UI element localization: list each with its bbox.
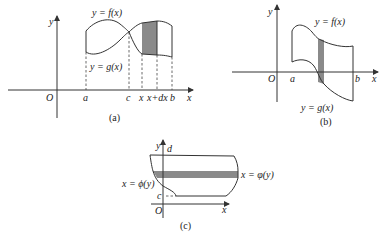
y-axis-label: y [48, 16, 54, 27]
figure-c: y d c O x x = ϕ(y) x = φ(y) (c) [121, 140, 274, 232]
tick-label-c: c [126, 92, 131, 103]
origin-label: O [268, 73, 275, 84]
tick-label-x: x [138, 92, 144, 103]
origin-label: O [46, 92, 53, 103]
figure-a: y x O y = f(x) y = g(x) a c x x+dx b (a) [8, 7, 193, 124]
figure-a-caption: (a) [109, 112, 120, 124]
tick-label-c: c [157, 190, 162, 201]
y-axis-label: y [155, 140, 161, 151]
tick-label-a: a [290, 73, 295, 84]
f-curve-label: y = f(x) [91, 7, 123, 19]
x-axis-label: x [371, 73, 377, 84]
area-element-strip [142, 21, 157, 55]
tick-label-b: b [355, 73, 360, 84]
area-between-curves-diagram: y x O y = f(x) y = g(x) a c x x+dx b (a)… [0, 0, 383, 248]
x-axis-label: x [221, 204, 227, 215]
area-element-strip [153, 171, 238, 178]
curve-f [86, 20, 172, 32]
y-axis-label: y [267, 6, 273, 17]
origin-label: O [155, 205, 162, 216]
tick-label-d: d [167, 143, 173, 154]
figure-b-caption: (b) [320, 116, 332, 128]
area-element-strip [318, 39, 324, 84]
curve-g [86, 32, 172, 57]
tick-label-a: a [83, 92, 88, 103]
g-curve-label: y = g(x) [89, 61, 123, 73]
figure-b: y x O y = f(x) y = g(x) a b (b) [232, 5, 378, 128]
x-axis-label: x [186, 92, 192, 103]
g-curve-label: y = g(x) [300, 102, 334, 114]
figure-c-caption: (c) [180, 220, 191, 232]
f-curve-label: y = f(x) [314, 16, 346, 28]
tick-label-b: b [170, 92, 175, 103]
varphi-curve-label: x = φ(y) [240, 169, 274, 181]
tick-label-x-plus-dx: x+dx [146, 92, 168, 103]
phi-curve-label: x = ϕ(y) [121, 178, 155, 190]
